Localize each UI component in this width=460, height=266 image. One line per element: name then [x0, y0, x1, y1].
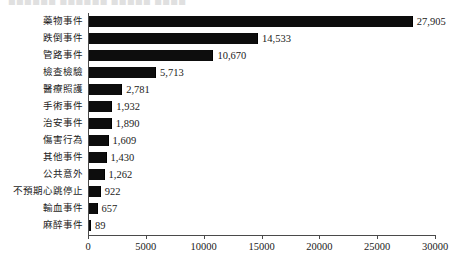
category-label: 傷害行為: [43, 132, 83, 149]
x-axis-tick: [435, 235, 436, 239]
bar-value-label: 1,932: [116, 99, 140, 114]
bar: [89, 220, 91, 231]
bar-value-label: 1,430: [111, 150, 135, 165]
bar: [89, 152, 107, 163]
x-axis-tick-label: 25000: [364, 241, 390, 252]
x-axis-tick: [262, 235, 263, 239]
bar-value-label: 1,890: [116, 116, 140, 131]
bar-row: 公共意外1,262: [88, 166, 435, 183]
plot-area: 藥物事件27,905跌倒事件14,533管路事件10,670檢查檢驗5,713醫…: [88, 13, 435, 235]
bar-value-label: 1,609: [113, 133, 137, 148]
bar: [89, 84, 122, 95]
x-axis-tick-label: 20000: [306, 241, 332, 252]
x-axis-tick-label: 15000: [248, 241, 274, 252]
category-label: 跌倒事件: [43, 30, 83, 47]
category-label: 藥物事件: [43, 13, 83, 30]
bar-row: 不預期心跳停止922: [88, 183, 435, 200]
bar: [89, 67, 156, 78]
bar-value-label: 14,533: [262, 31, 291, 46]
bar-value-label: 10,670: [217, 48, 246, 63]
bar-value-label: 27,905: [417, 14, 446, 29]
category-label: 其他事件: [43, 149, 83, 166]
x-axis-tick-label: 5000: [135, 241, 156, 252]
category-label: 檢查檢驗: [43, 64, 83, 81]
x-axis-tick: [204, 235, 205, 239]
bar: [89, 118, 112, 129]
bar-value-label: 1,262: [109, 167, 133, 182]
bar: [89, 169, 105, 180]
x-axis-tick: [377, 235, 378, 239]
category-label: 麻醉事件: [43, 217, 83, 234]
x-axis-tick: [319, 235, 320, 239]
bar: [89, 50, 213, 61]
bar-value-label: 922: [105, 184, 121, 199]
category-label: 輸血事件: [43, 200, 83, 217]
category-label: 不預期心跳停止: [13, 183, 83, 200]
bar-row: 跌倒事件14,533: [88, 30, 435, 47]
bar-row: 治安事件1,890: [88, 115, 435, 132]
category-label: 手術事件: [43, 98, 83, 115]
bar: [89, 16, 413, 27]
bar-row: 其他事件1,430: [88, 149, 435, 166]
bar-value-label: 2,781: [126, 82, 150, 97]
bar: [89, 135, 109, 146]
bar: [89, 101, 112, 112]
x-axis-tick-label: 0: [85, 241, 90, 252]
bar: [89, 186, 101, 197]
category-label: 管路事件: [43, 47, 83, 64]
bar-row: 輸血事件657: [88, 200, 435, 217]
bar-value-label: 657: [102, 201, 118, 216]
category-label: 醫療照護: [43, 81, 83, 98]
category-label: 公共意外: [43, 166, 83, 183]
horizontal-bar-chart: 藥物事件27,905跌倒事件14,533管路事件10,670檢查檢驗5,713醫…: [0, 0, 460, 266]
bar: [89, 203, 98, 214]
bar-row: 檢查檢驗5,713: [88, 64, 435, 81]
x-axis-tick-label: 10000: [191, 241, 217, 252]
bar-value-label: 89: [95, 218, 106, 233]
bar-row: 管路事件10,670: [88, 47, 435, 64]
bar-row: 醫療照護2,781: [88, 81, 435, 98]
bar-row: 手術事件1,932: [88, 98, 435, 115]
x-axis-tick-label: 30000: [422, 241, 448, 252]
bar-row: 麻醉事件89: [88, 217, 435, 234]
bar-row: 藥物事件27,905: [88, 13, 435, 30]
bar-value-label: 5,713: [160, 65, 184, 80]
x-axis-tick: [146, 235, 147, 239]
bar-row: 傷害行為1,609: [88, 132, 435, 149]
category-label: 治安事件: [43, 115, 83, 132]
bar: [89, 33, 258, 44]
x-axis-tick: [88, 235, 89, 239]
